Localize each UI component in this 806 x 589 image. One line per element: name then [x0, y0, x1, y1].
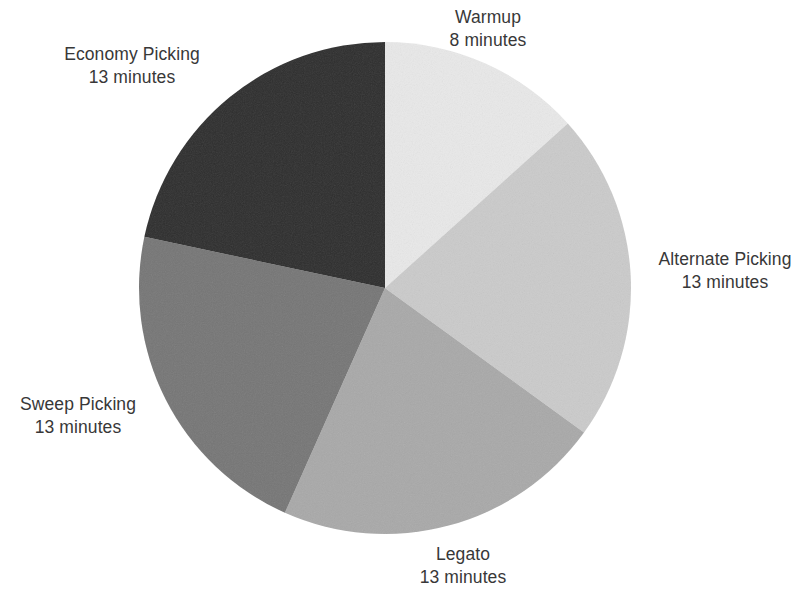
slice-label-legato: Legato 13 minutes	[373, 543, 553, 589]
slice-label-legato-name: Legato	[373, 543, 553, 566]
slice-label-sweep-picking: Sweep Picking 13 minutes	[0, 393, 158, 439]
slice-label-economy-picking-value: 13 minutes	[37, 66, 227, 89]
slice-label-alternate-picking-name: Alternate Picking	[640, 248, 806, 271]
slice-label-warmup: Warmup 8 minutes	[398, 6, 578, 52]
pie-chart: Warmup 8 minutes Alternate Picking 13 mi…	[0, 0, 806, 589]
slice-label-economy-picking: Economy Picking 13 minutes	[37, 43, 227, 89]
slice-label-warmup-name: Warmup	[398, 6, 578, 29]
slice-label-alternate-picking: Alternate Picking 13 minutes	[640, 248, 806, 294]
slice-label-sweep-picking-value: 13 minutes	[0, 416, 158, 439]
slice-label-legato-value: 13 minutes	[373, 566, 553, 589]
slice-label-economy-picking-name: Economy Picking	[37, 43, 227, 66]
slice-label-warmup-value: 8 minutes	[398, 29, 578, 52]
slice-label-alternate-picking-value: 13 minutes	[640, 271, 806, 294]
slice-label-sweep-picking-name: Sweep Picking	[0, 393, 158, 416]
